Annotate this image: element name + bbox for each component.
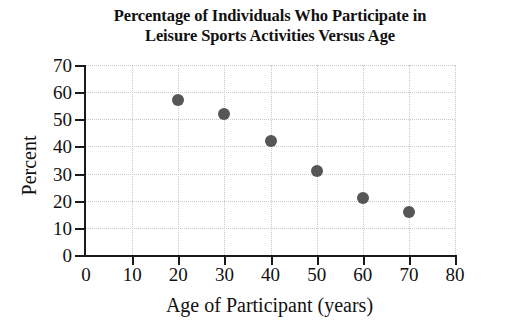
data-point	[172, 94, 184, 106]
data-point	[403, 206, 415, 218]
y-axis-tick	[75, 255, 86, 257]
gridline-vertical	[363, 65, 364, 255]
gridline-vertical	[317, 65, 318, 255]
data-point	[311, 165, 323, 177]
data-point	[357, 192, 369, 204]
x-axis-tick-label: 30	[215, 265, 234, 284]
x-axis-title: Age of Participant (years)	[84, 294, 455, 317]
y-axis-tick	[75, 201, 86, 203]
x-axis-tick-label: 0	[81, 265, 91, 284]
y-axis-tick-label: 0	[32, 246, 72, 265]
gridline-vertical	[409, 65, 410, 255]
chart-title-line-1: Percentage of Individuals Who Participat…	[40, 6, 500, 26]
y-axis-tick-label: 30	[32, 164, 72, 183]
y-axis-tick-label: 40	[32, 137, 72, 156]
x-axis-tick-label: 10	[123, 265, 142, 284]
y-axis-tick-label: 20	[32, 191, 72, 210]
scatter-chart-figure: Percentage of Individuals Who Participat…	[0, 0, 530, 331]
chart-title-line-2: Leisure Sports Activities Versus Age	[40, 26, 500, 46]
y-axis-tick-label: 10	[32, 218, 72, 237]
gridline-vertical	[271, 65, 272, 255]
gridline-vertical	[224, 65, 225, 255]
y-axis-tick-label: 70	[32, 56, 72, 75]
x-axis-title-text: Age of Participant (years)	[166, 294, 373, 316]
y-axis-tick	[75, 65, 86, 67]
y-axis-tick	[75, 174, 86, 176]
x-axis-tick-label: 50	[307, 265, 326, 284]
x-axis-tick-label: 20	[169, 265, 188, 284]
y-axis-tick-label: 50	[32, 110, 72, 129]
data-point	[218, 108, 230, 120]
data-point	[265, 135, 277, 147]
y-axis-tick	[75, 119, 86, 121]
y-axis-tick	[75, 92, 86, 94]
x-axis-tick-label: 80	[446, 265, 465, 284]
x-axis-tick-label: 70	[399, 265, 418, 284]
gridline-vertical	[132, 65, 133, 255]
y-axis-tick	[75, 228, 86, 230]
gridline-vertical	[455, 65, 456, 255]
y-axis-tick-label: 60	[32, 83, 72, 102]
plot-area: 01020304050607001020304050607080	[84, 65, 455, 257]
chart-title: Percentage of Individuals Who Participat…	[40, 6, 500, 46]
x-axis-tick-label: 60	[353, 265, 372, 284]
x-axis-tick-label: 40	[261, 265, 280, 284]
y-axis-tick	[75, 146, 86, 148]
